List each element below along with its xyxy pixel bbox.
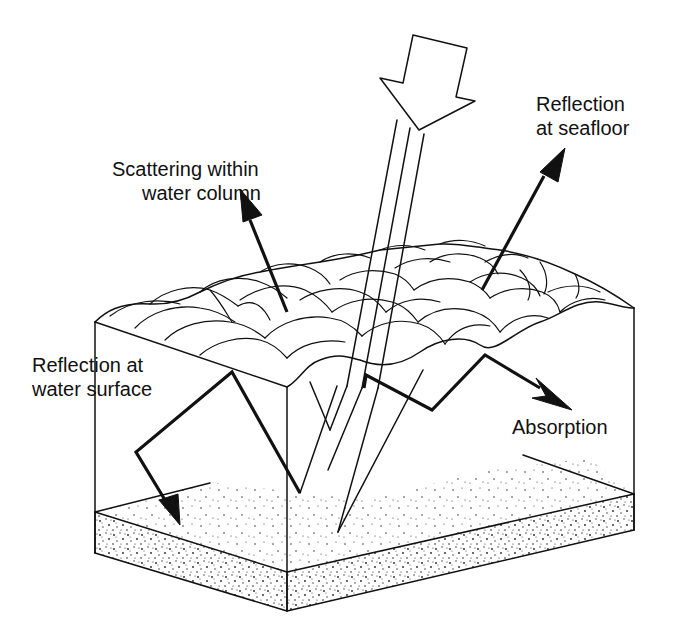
light-rays [300,120,424,532]
seafloor-sediment [95,455,634,611]
label-line: Reflection at [32,353,152,377]
label-reflection-surface: Reflection at water surface [32,353,152,401]
label-absorption: Absorption [512,415,608,439]
water-surface [95,240,634,387]
label-line: water column [112,181,261,205]
label-line: water surface [32,377,152,401]
label-line: at seafloor [536,116,629,140]
incoming-light-arrow [380,35,475,130]
label-line: Scattering within [112,157,261,181]
scattering-arrow [240,189,287,312]
label-line: Reflection [536,92,629,116]
label-reflection-seafloor: Reflection at seafloor [536,92,629,140]
label-scattering: Scattering within water column [112,157,261,205]
reflection-seafloor-arrow [482,148,565,290]
